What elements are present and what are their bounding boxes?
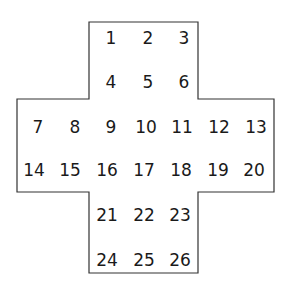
- cell-25: 25: [126, 248, 162, 272]
- cell-7: 7: [20, 115, 56, 139]
- cell-4: 4: [93, 70, 129, 94]
- cell-22: 22: [126, 203, 162, 227]
- cell-18: 18: [163, 158, 199, 182]
- cell-21: 21: [89, 203, 125, 227]
- cell-8: 8: [57, 115, 93, 139]
- cell-17: 17: [126, 158, 162, 182]
- cell-10: 10: [128, 115, 164, 139]
- cross-shape: [17, 22, 274, 273]
- cell-2: 2: [130, 26, 166, 50]
- cell-1: 1: [93, 26, 129, 50]
- cell-6: 6: [166, 70, 202, 94]
- cell-16: 16: [89, 158, 125, 182]
- cell-14: 14: [16, 158, 52, 182]
- cell-3: 3: [166, 26, 202, 50]
- cell-20: 20: [236, 158, 272, 182]
- cell-26: 26: [162, 248, 198, 272]
- cell-11: 11: [164, 115, 200, 139]
- cell-23: 23: [162, 203, 198, 227]
- cell-15: 15: [52, 158, 88, 182]
- cell-13: 13: [238, 115, 274, 139]
- cell-12: 12: [201, 115, 237, 139]
- cell-24: 24: [89, 248, 125, 272]
- cell-5: 5: [130, 70, 166, 94]
- cell-9: 9: [93, 115, 129, 139]
- cell-19: 19: [200, 158, 236, 182]
